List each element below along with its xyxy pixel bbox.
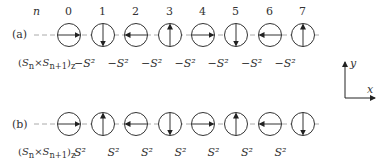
spin-down-icon	[92, 24, 115, 47]
cross-product-value: S²	[208, 146, 220, 159]
cross-product-value: S²	[108, 146, 120, 159]
spin-left-icon	[125, 113, 148, 136]
cross-product-value: S²	[275, 146, 287, 159]
site-index: 4	[199, 5, 206, 18]
spin-down-icon	[292, 113, 315, 136]
cross-product-value: −S²	[275, 57, 296, 70]
row-a-product-label: (Sn×Sn+1)z	[18, 57, 75, 71]
y-axis-label: y	[350, 57, 356, 70]
cross-product-value: S²	[241, 146, 253, 159]
cross-product-value: −S²	[108, 57, 129, 70]
x-axis-label: x	[367, 83, 373, 96]
cross-product-value: −S²	[241, 57, 262, 70]
row-b-product-label: (Sn×Sn+1)z	[18, 146, 75, 160]
spin-left-icon	[259, 113, 282, 136]
cross-product-value: −S²	[141, 57, 162, 70]
site-index: 3	[166, 5, 173, 18]
spin-right-icon	[58, 24, 81, 47]
site-index: 6	[266, 5, 273, 18]
spin-up-icon	[225, 113, 248, 136]
spin-left-icon	[259, 24, 282, 47]
cross-product-value: S²	[141, 146, 153, 159]
row-b-label: (b)	[12, 118, 28, 131]
index-label: n	[33, 5, 40, 18]
spin-right-icon	[192, 113, 215, 136]
spin-right-icon	[192, 24, 215, 47]
spin-up-icon	[159, 24, 182, 47]
cross-product-value: −S²	[175, 57, 196, 70]
site-index: 5	[232, 5, 239, 18]
spin-left-icon	[125, 24, 148, 47]
spin-down-icon	[225, 24, 248, 47]
spin-right-icon	[58, 113, 81, 136]
site-index: 0	[65, 5, 72, 18]
site-index: 7	[299, 5, 306, 18]
row-a-label: (a)	[12, 28, 27, 41]
spin-up-icon	[292, 24, 315, 47]
spin-down-icon	[159, 113, 182, 136]
spin-chain-diagram	[0, 0, 381, 164]
site-index: 1	[99, 5, 106, 18]
cross-product-value: S²	[74, 146, 86, 159]
spin-up-icon	[92, 113, 115, 136]
site-index: 2	[132, 5, 139, 18]
cross-product-value: S²	[175, 146, 187, 159]
cross-product-value: −S²	[208, 57, 229, 70]
cross-product-value: −S²	[74, 57, 95, 70]
